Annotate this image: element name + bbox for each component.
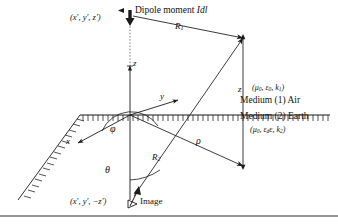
image-label: Image [140,197,163,206]
theta-angle-label: θ [105,165,110,175]
m1-mu-sub: 0 [259,86,262,92]
r2-line [134,38,243,196]
rho-line [130,115,243,166]
m2-mu-sub: 0 [257,128,260,134]
dipole-moment-symbol: Idl [197,5,208,15]
medium1-parameters: (μ0, ε0, k1) [252,84,284,93]
y-axis [130,100,178,115]
z-height-label: z [238,85,242,94]
rho-label: ρ [196,136,201,146]
image-coordinate-label: (x′, y′, −z′) [70,197,106,206]
x-axis-label: x [66,137,70,146]
dipole-moment-title: Dipole moment Idl [135,6,207,16]
source-coordinate-label: (x′, y′, z′) [70,13,101,22]
ground-hatching-left [24,119,84,198]
m2-eps2: ε [269,125,272,134]
r1-subscript: 1 [181,25,184,31]
r2-subscript: 2 [158,156,161,162]
x-axis [78,115,130,143]
phi-angle-label: φ [110,124,116,134]
medium2-parameters: (μ0, εdε, k2) [250,126,285,135]
medium1-name: Medium (1) Air [240,96,300,106]
z-axis-label: z [133,59,137,68]
r1-label: R1 [175,22,184,31]
m1-eps-sub: 0 [269,86,272,92]
theta-angle-arc [130,170,160,180]
medium2-name: Medium (2) Earth [240,112,309,122]
z-axis [128,20,132,200]
r2-label: R2 [152,153,161,162]
dipole-moment-arrow [118,8,135,26]
r1-line [133,16,243,38]
m1-paren-close: ) [282,83,285,92]
y-axis-label: y [160,92,164,101]
dipole-moment-text: Dipole moment [135,5,197,15]
m2-paren-close: ) [283,125,286,134]
